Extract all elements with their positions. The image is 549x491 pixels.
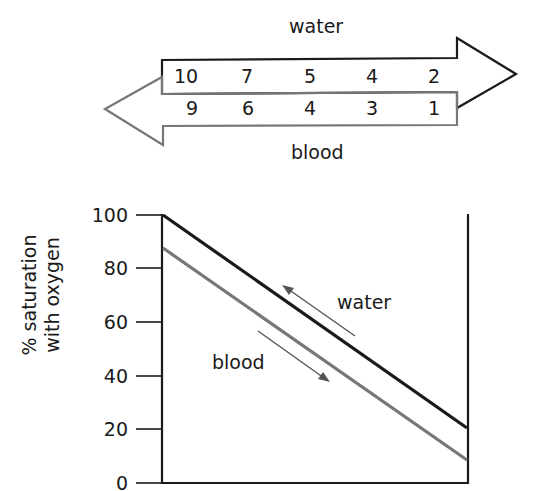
water-value: 7 (241, 67, 253, 86)
blood-arrow (105, 77, 457, 145)
water-line (163, 215, 467, 428)
blood-arrow-label: blood (291, 143, 344, 162)
water-value: 4 (366, 67, 378, 86)
diagram-canvas (0, 0, 549, 491)
blood-value: 4 (304, 99, 316, 118)
blood-value: 9 (186, 99, 198, 118)
y-axis-label-line1: % saturation (18, 195, 41, 395)
y-tick-label: 0 (78, 474, 128, 491)
water-value: 10 (174, 67, 198, 86)
blood-series-label: blood (212, 353, 265, 372)
water-value: 5 (304, 67, 316, 86)
y-ticks (136, 215, 162, 483)
y-axis-label: % saturation with oxygen (18, 195, 64, 395)
blood-value: 1 (428, 99, 440, 118)
y-tick-label: 40 (78, 367, 128, 386)
water-value: 2 (428, 67, 440, 86)
water-arrow (162, 38, 516, 108)
water-arrow-label: water (289, 17, 343, 36)
blood-value: 3 (366, 99, 378, 118)
blood-value: 6 (242, 99, 254, 118)
y-axis-label-line2: with oxygen (41, 195, 64, 395)
y-tick-label: 80 (78, 259, 128, 278)
y-tick-label: 100 (78, 206, 128, 225)
y-tick-label: 60 (78, 313, 128, 332)
y-tick-label: 20 (78, 420, 128, 439)
water-series-label: water (337, 293, 391, 312)
blood-line (163, 248, 467, 460)
